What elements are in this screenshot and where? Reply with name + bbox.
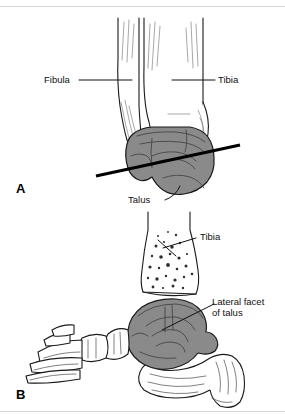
panel-letter-b: B <box>16 388 25 401</box>
panel-a: Fibula Tibia Talus A <box>0 10 285 210</box>
panel-a-illustration <box>0 10 285 210</box>
label-tibia-b: Tibia <box>200 231 220 242</box>
label-talus: Talus <box>128 194 150 205</box>
top-divider <box>0 6 285 7</box>
anatomy-figure: Fibula Tibia Talus A <box>0 0 285 418</box>
label-fibula: Fibula <box>44 74 70 85</box>
label-lateral-facet-of-talus: Lateral facet of talus <box>212 296 282 318</box>
label-tibia: Tibia <box>218 74 238 85</box>
label-lateral-facet-line1: Lateral facet <box>212 296 264 307</box>
label-lateral-facet-line2: of talus <box>212 307 243 318</box>
panel-letter-a: A <box>16 182 25 195</box>
panel-b: Tibia Lateral facet of talus B <box>0 212 285 412</box>
